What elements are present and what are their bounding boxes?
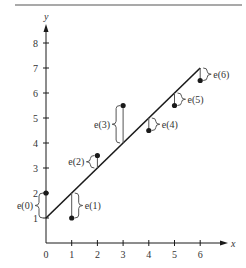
brace-icon [152, 118, 160, 131]
brace-icon [203, 68, 211, 81]
data-point [95, 153, 100, 158]
error-label: e(0) [17, 200, 33, 212]
y-axis-ticks: 12345678 [33, 38, 49, 224]
brace-icon [178, 93, 186, 106]
y-tick-label: 6 [33, 88, 38, 99]
data-point [121, 103, 126, 108]
x-tick-label: 6 [198, 249, 203, 260]
error-annotation: e(3) [94, 106, 123, 144]
brace-icon [75, 193, 83, 218]
y-axis-arrow-icon [44, 24, 49, 32]
data-point [172, 103, 177, 108]
data-point [198, 78, 203, 83]
data-point [69, 215, 74, 220]
y-tick-label: 5 [33, 113, 38, 124]
error-label: e(5) [188, 94, 204, 106]
data-point [43, 190, 48, 195]
error-label: e(3) [94, 119, 110, 131]
error-label: e(4) [162, 119, 178, 131]
error-annotation: e(5) [175, 93, 204, 106]
y-axis-label: y [43, 11, 49, 22]
error-annotation: e(4) [149, 118, 178, 131]
error-label: e(6) [213, 69, 229, 81]
chart: xy 0123456 12345678 e(0)e(1)e(2)e(3)e(4)… [0, 0, 246, 268]
data-point [146, 128, 151, 133]
error-annotation: e(1) [72, 193, 101, 218]
brace-icon [112, 106, 120, 144]
x-tick-label: 0 [44, 249, 49, 260]
x-tick-label: 2 [95, 249, 100, 260]
y-tick-label: 4 [33, 138, 38, 149]
error-annotation: e(6) [200, 68, 229, 81]
x-axis-label: x [230, 238, 236, 249]
x-axis-arrow-icon [220, 241, 228, 246]
x-tick-label: 5 [172, 249, 177, 260]
error-label: e(2) [68, 156, 84, 168]
y-tick-label: 8 [33, 38, 38, 49]
error-annotation: e(0) [17, 193, 43, 218]
error-annotation: e(2) [68, 156, 97, 169]
x-tick-label: 4 [146, 249, 151, 260]
y-tick-label: 1 [33, 213, 38, 224]
y-tick-label: 7 [33, 63, 38, 74]
y-tick-label: 2 [33, 188, 38, 199]
x-tick-label: 3 [121, 249, 126, 260]
brace-icon [86, 156, 94, 169]
error-label: e(1) [85, 200, 101, 212]
data-points [43, 78, 202, 221]
y-tick-label: 3 [33, 163, 38, 174]
x-tick-label: 1 [69, 249, 74, 260]
